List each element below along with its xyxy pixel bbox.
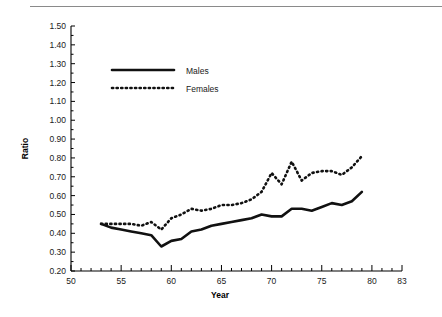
- x-tick-label: 60: [167, 276, 177, 286]
- series-line-males: [101, 192, 362, 247]
- x-tick-label: 50: [66, 276, 76, 286]
- y-tick-label: 0.30: [49, 247, 66, 257]
- y-tick-label: 1.20: [49, 78, 66, 88]
- legend-label-males: Males: [186, 66, 209, 76]
- x-tick-label: 70: [267, 276, 277, 286]
- y-tick-label: 1.00: [49, 115, 66, 125]
- chart-container: 0.200.300.400.500.600.700.800.901.001.10…: [0, 0, 442, 317]
- x-axis-title: Year: [211, 290, 230, 300]
- x-tick-label: 65: [217, 276, 227, 286]
- legend-label-females: Females: [186, 84, 219, 94]
- y-tick-label: 1.30: [49, 59, 66, 69]
- y-tick-label: 0.20: [49, 266, 66, 276]
- line-chart: 0.200.300.400.500.600.700.800.901.001.10…: [0, 0, 442, 317]
- y-tick-label: 1.40: [49, 40, 66, 50]
- y-tick-label: 1.50: [49, 21, 66, 31]
- y-tick-label: 0.40: [49, 228, 66, 238]
- y-axis-title: Ratio: [20, 138, 30, 159]
- y-tick-label: 0.80: [49, 153, 66, 163]
- y-tick-label: 0.70: [49, 172, 66, 182]
- x-tick-label: 83: [397, 276, 407, 286]
- y-tick-label: 1.10: [49, 96, 66, 106]
- series-line-females: [101, 156, 362, 230]
- x-tick-label: 55: [116, 276, 126, 286]
- y-tick-label: 0.50: [49, 209, 66, 219]
- y-tick-label: 0.60: [49, 191, 66, 201]
- y-tick-label: 0.90: [49, 134, 66, 144]
- x-tick-label: 80: [367, 276, 377, 286]
- x-tick-label: 75: [317, 276, 327, 286]
